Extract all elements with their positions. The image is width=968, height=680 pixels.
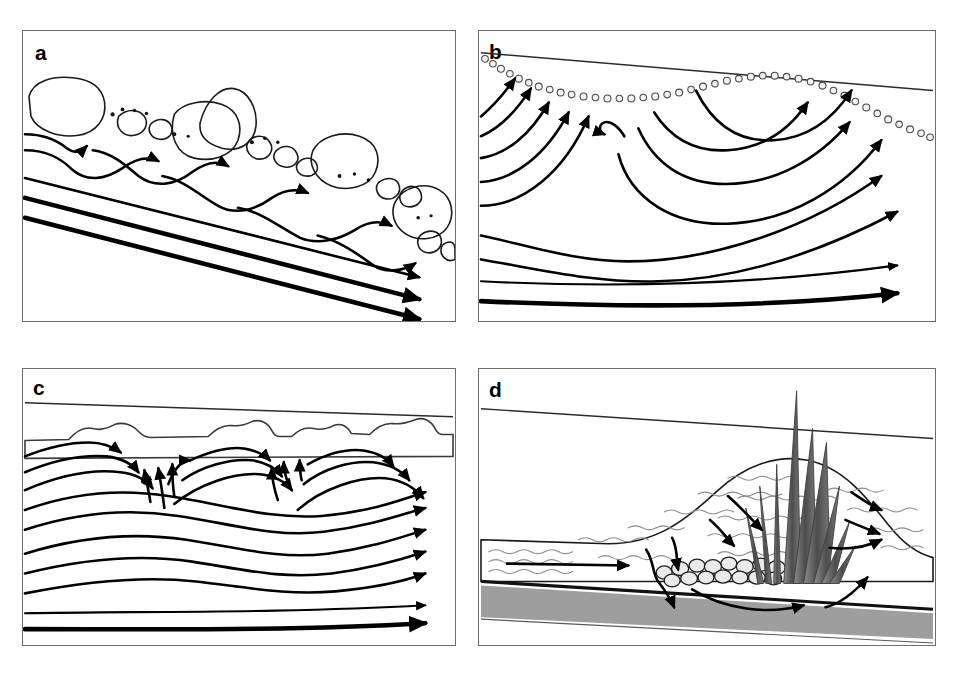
water-surface-line — [481, 409, 933, 439]
panel-a-drawing: a — [23, 31, 455, 321]
panel-c-label: c — [33, 376, 45, 399]
figure-container: a — [0, 0, 968, 680]
basal-confining-layer — [481, 581, 933, 643]
gravel-bed — [482, 55, 934, 140]
deep-flow-lines — [25, 492, 425, 629]
panel-b: b — [478, 30, 936, 322]
panel-b-label: b — [489, 40, 502, 63]
panel-b-drawing: b — [479, 31, 935, 321]
water-surface-line — [25, 403, 453, 417]
panel-c-drawing: c — [23, 369, 455, 645]
panel-d-drawing: d — [479, 369, 935, 645]
water-surface-line — [481, 53, 933, 91]
deep-flow-lines — [25, 178, 419, 319]
panel-a-label: a — [35, 41, 47, 64]
panel-a: a — [22, 30, 456, 322]
sediment-layer — [25, 419, 453, 459]
upwelling-arrows — [481, 79, 624, 206]
panel-d: d — [478, 368, 936, 646]
panel-d-label: d — [489, 378, 502, 401]
shallow-exchange-arrows — [25, 442, 423, 510]
panel-c: c — [22, 368, 456, 646]
downwelling-arrows — [481, 91, 897, 282]
